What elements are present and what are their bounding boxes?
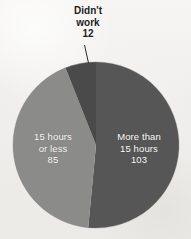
slice-label-left-value: 85 <box>17 154 89 166</box>
slice-label-right-value: 103 <box>101 154 177 166</box>
slice-label-15-hours-or-less: 15 hours or less 85 <box>17 131 89 166</box>
slice-label-right-line1: More than <box>101 131 177 143</box>
slice-label-left-line1: 15 hours <box>17 131 89 143</box>
slice-label-right-line2: 15 hours <box>101 143 177 155</box>
slice-label-more-than-15-hours: More than 15 hours 103 <box>101 131 177 166</box>
callout-label-didnt-work: Didn't work 12 <box>52 5 124 40</box>
callout-label-line2: work <box>52 17 124 29</box>
pie-chart-figure: Didn't work 12 15 hours or less 85 More … <box>0 0 191 239</box>
callout-label-line1: Didn't <box>52 5 124 17</box>
callout-leader-line <box>85 45 89 63</box>
slice-label-left-line2: or less <box>17 143 89 155</box>
callout-label-value: 12 <box>52 28 124 40</box>
